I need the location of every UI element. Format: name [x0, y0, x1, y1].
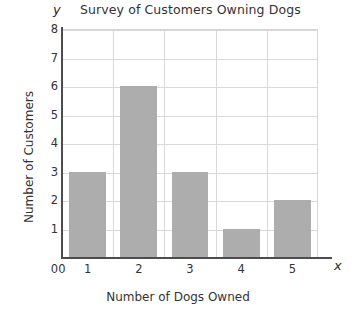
y-axis-title: Number of Customers — [22, 42, 36, 272]
bars-group — [62, 30, 317, 257]
y-axis-tick-label: 1 — [38, 222, 58, 236]
y-axis-line — [61, 27, 63, 259]
y-axis-tick-labels: 12345678 — [34, 29, 58, 257]
y-axis-tick-label: 5 — [38, 108, 58, 122]
x-axis-tick-label: 1 — [73, 262, 103, 276]
x-axis-letter: x — [334, 258, 342, 273]
y-axis-tick-label: 4 — [38, 136, 58, 150]
y-axis-tick-label: 6 — [38, 79, 58, 93]
y-axis-tick-label: 7 — [38, 51, 58, 65]
bar-chart: Survey of Customers Owning Dogs y x 1234… — [0, 0, 356, 317]
bar — [69, 172, 106, 258]
chart-title: Survey of Customers Owning Dogs — [80, 2, 330, 17]
x-axis-tick-label: 5 — [277, 262, 307, 276]
x-axis-tick-label: 2 — [124, 262, 154, 276]
y-axis-tick-label: 3 — [38, 165, 58, 179]
bar — [223, 229, 260, 258]
y-axis-tick-label: 8 — [38, 22, 58, 36]
y-axis-tick-label: 2 — [38, 193, 58, 207]
bar — [274, 200, 311, 257]
y-axis-letter: y — [53, 2, 61, 17]
x-axis-tick-label: 3 — [175, 262, 205, 276]
bar — [172, 172, 209, 258]
x-axis-line — [61, 257, 332, 259]
plot-area — [62, 29, 318, 257]
bar — [120, 86, 157, 257]
x-axis-title: Number of Dogs Owned — [0, 290, 356, 304]
x-axis-tick-labels: 012345 — [62, 262, 318, 280]
x-axis-tick-label: 4 — [226, 262, 256, 276]
